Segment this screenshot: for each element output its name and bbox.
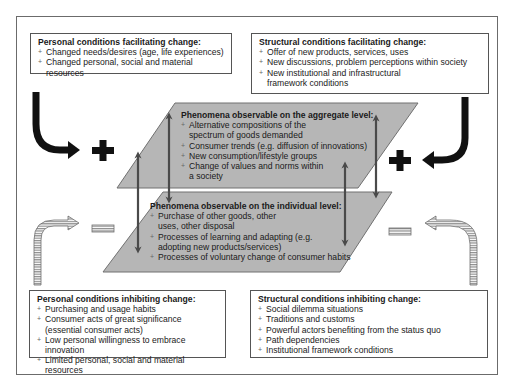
list-item: Processes of learning and adapting (e.g.… [150, 232, 323, 252]
list-item: Limited personal, social and material re… [37, 355, 219, 375]
minus-sign-right-icon [389, 228, 411, 235]
list-item: Alternative compositions of the spectrum… [181, 120, 339, 140]
personal-inhibiting-box: Personal conditions inhibiting change: P… [29, 290, 226, 358]
list-item: Powerful actors benefiting from the stat… [258, 325, 481, 335]
aggregate-level-text: Phenomena observable on the aggregate le… [181, 110, 391, 181]
structural-inhibiting-box: Structural conditions inhibiting change:… [250, 290, 488, 358]
list-item: Purchasing and usage habits [37, 304, 219, 314]
list-item: Path dependencies [258, 335, 481, 345]
inhibiting-arrow-right-icon [425, 216, 477, 285]
list-item: Changed personal, social and material re… [38, 57, 225, 77]
list-item: New consumption/lifestyle groups [181, 151, 391, 161]
list-item: Offer of new products, services, uses [259, 47, 482, 57]
box-title: Structural conditions inhibiting change: [258, 294, 481, 304]
list-item: Institutional framework conditions [258, 345, 481, 355]
plus-sign-left-icon [92, 140, 114, 161]
individual-level-text: Phenomena observable on the individual l… [150, 201, 370, 262]
list-item: New discussions, problem perceptions wit… [259, 57, 482, 67]
list-item: Changed needs/desires (age, life experie… [38, 47, 225, 57]
box-title: Structural conditions facilitating chang… [259, 37, 482, 47]
list-item: Processes of voluntary change of consume… [150, 252, 370, 262]
plane-title: Phenomena observable on the individual l… [150, 201, 370, 211]
list-item: Purchase of other goods, other uses, oth… [150, 211, 298, 231]
list-item: Consumer trends (e.g. diffusion of innov… [181, 141, 391, 151]
list-item: Social dilemma situations [258, 304, 481, 314]
box-title: Personal conditions facilitating change: [38, 37, 225, 47]
list-item: Consumer acts of great significance (ess… [37, 314, 195, 334]
minus-sign-left-icon [92, 225, 114, 232]
facilitating-arrow-left-icon [36, 92, 70, 150]
structural-facilitating-box: Structural conditions facilitating chang… [251, 33, 489, 94]
list-item: New institutional and infrastructural fr… [259, 68, 417, 88]
facilitating-arrow-right-icon [431, 97, 465, 160]
list-item: Traditions and customs [258, 314, 481, 324]
plane-title: Phenomena observable on the aggregate le… [181, 110, 391, 120]
list-item: Low personal willingness to embrace inno… [37, 335, 219, 355]
personal-facilitating-box: Personal conditions facilitating change:… [30, 33, 232, 74]
inhibiting-arrow-left-icon [34, 216, 79, 285]
plus-sign-right-icon [389, 150, 411, 171]
box-title: Personal conditions inhibiting change: [37, 294, 219, 304]
list-item: Change of values and norms within a soci… [181, 161, 329, 181]
